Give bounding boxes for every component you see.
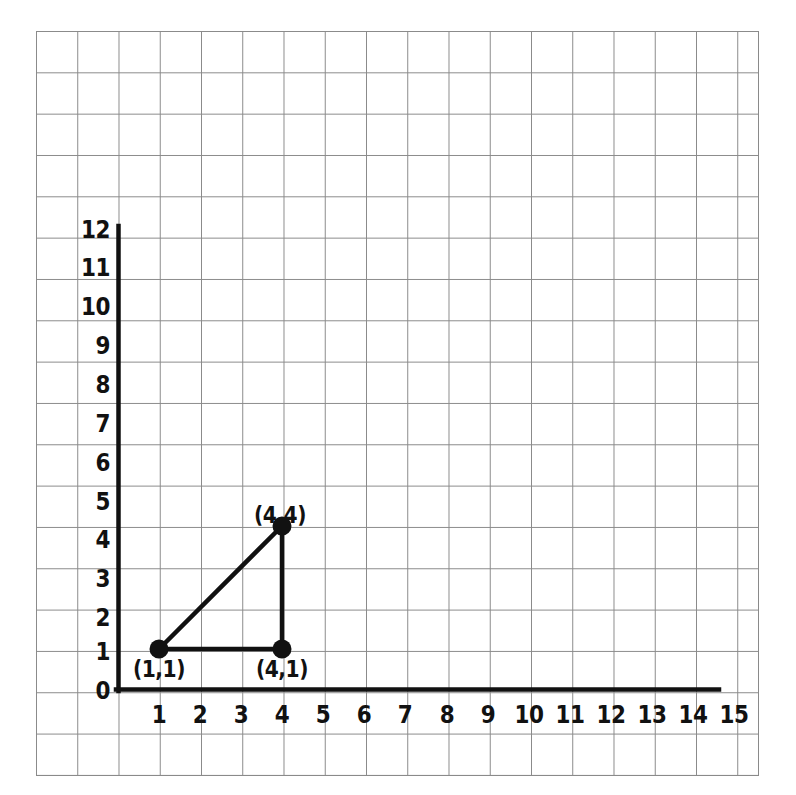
y-tick-label-1: 1: [80, 639, 110, 664]
x-tick-label-8: 8: [430, 702, 464, 727]
x-tick-label-3: 3: [224, 702, 258, 727]
y-tick-label-4: 4: [80, 527, 110, 552]
y-tick-label-3: 3: [80, 566, 110, 591]
x-tick-label-13: 13: [635, 702, 669, 727]
y-tick-label-7: 7: [80, 411, 110, 436]
x-tick-label-10: 10: [512, 702, 546, 727]
point-label-4-4: (4,4): [240, 504, 319, 527]
y-tick-label-2: 2: [80, 605, 110, 630]
y-tick-label-9: 9: [80, 333, 110, 358]
x-tick-label-9: 9: [471, 702, 505, 727]
x-tick-label-5: 5: [306, 702, 340, 727]
point-label-4-1: (4,1): [242, 658, 321, 681]
y-tick-label-8: 8: [80, 372, 110, 397]
y-tick-label-11: 11: [80, 255, 110, 280]
x-tick-label-2: 2: [183, 702, 217, 727]
x-tick-label-4: 4: [265, 702, 299, 727]
point-label-1-1: (1,1): [119, 658, 198, 681]
y-tick-label-5: 5: [80, 489, 110, 514]
y-tick-label-6: 6: [80, 450, 110, 475]
x-tick-label-11: 11: [553, 702, 587, 727]
y-tick-label-0: 0: [80, 678, 110, 703]
x-tick-label-6: 6: [347, 702, 381, 727]
figure-canvas: 12 11 10 9 8 7 6 5 4 3 2 1 0 1 2 3 4 5 6…: [0, 0, 796, 795]
triangle-edge-hypotenuse: [159, 526, 282, 649]
x-tick-label-12: 12: [594, 702, 628, 727]
triangle-shape: [159, 526, 282, 649]
y-tick-label-12: 12: [80, 217, 110, 242]
x-tick-label-15: 15: [717, 702, 751, 727]
y-tick-label-10: 10: [80, 294, 110, 319]
x-tick-label-7: 7: [388, 702, 422, 727]
x-tick-label-1: 1: [142, 702, 176, 727]
x-tick-label-14: 14: [676, 702, 710, 727]
